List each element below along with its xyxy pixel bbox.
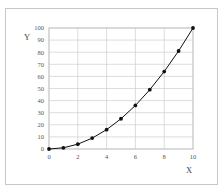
x-tick-label: 10: [190, 153, 197, 160]
data-point: [119, 117, 123, 121]
y-tick-label: 70: [38, 61, 45, 68]
data-point: [177, 49, 181, 53]
data-point: [105, 128, 109, 132]
y-tick-label: 20: [38, 121, 45, 128]
y-tick-label: 80: [38, 49, 45, 56]
data-point: [47, 147, 51, 151]
y-tick-label: 0: [41, 145, 44, 152]
data-point: [62, 146, 66, 150]
grid-lines: [49, 28, 193, 149]
y-tick-label: 40: [38, 97, 45, 104]
y-tick-label: 10: [38, 133, 45, 140]
y-tick-label: 90: [38, 36, 45, 43]
data-point: [191, 26, 195, 30]
x-tick-label: 0: [47, 153, 50, 160]
data-point: [162, 70, 166, 74]
x-tick-label: 8: [163, 153, 166, 160]
x-axis-label: X: [186, 165, 192, 175]
data-point: [134, 104, 138, 108]
y-axis-ticks: 0102030405060708090100: [34, 24, 44, 152]
y-tick-label: 50: [38, 85, 45, 92]
data-point: [76, 142, 80, 146]
x-tick-label: 2: [76, 153, 79, 160]
y-tick-label: 30: [38, 109, 45, 116]
data-point: [148, 88, 152, 92]
x-tick-label: 4: [105, 153, 109, 160]
y-tick-label: 60: [38, 73, 45, 80]
y-tick-label: 100: [34, 24, 44, 31]
y-axis-label: Y: [24, 32, 30, 42]
x-axis-ticks: 0246810: [47, 153, 196, 160]
line-chart: 0102030405060708090100 0246810 Y X: [0, 0, 223, 194]
data-point: [90, 136, 94, 140]
x-tick-label: 6: [134, 153, 138, 160]
